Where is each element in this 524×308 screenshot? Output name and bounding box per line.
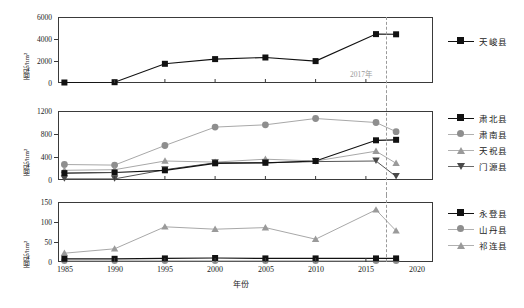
x-axis-title: 年份 — [233, 278, 249, 289]
legend-item-menyuan[interactable]: 门源县 — [448, 158, 508, 174]
annotation-dashed-line-panel2 — [386, 98, 387, 195]
legend-label-menyuan: 门源县 — [479, 160, 508, 172]
legend-item-yongdeng[interactable]: 永登县 — [448, 205, 508, 221]
legend-swatch-triangle-icon — [448, 240, 474, 250]
x-tick-1995: 1995 — [148, 265, 182, 274]
legend-label-sunan: 肃南县 — [479, 128, 508, 140]
x-tick-1990: 1990 — [98, 265, 132, 274]
x-tick-2000: 2000 — [198, 265, 232, 274]
x-tickmarks-panel2 — [115, 176, 366, 180]
legend-item-qilian[interactable]: 祁连县 — [448, 237, 508, 253]
legend-item-subei[interactable]: 肃北县 — [448, 110, 508, 126]
x-tick-2010: 2010 — [299, 265, 333, 274]
legend-item-shandan[interactable]: 山丹县 — [448, 221, 508, 237]
legend-item-tianzhu[interactable]: 天祝县 — [448, 142, 508, 158]
legend-swatch-circle-icon — [448, 224, 474, 234]
x-tickmarks-panel1 — [115, 79, 366, 83]
legend-swatch-square-icon — [448, 36, 474, 46]
x-tick-2020: 2020 — [400, 265, 434, 274]
plot-svg-panel1 — [0, 0, 524, 98]
panel-tianjun: 面积/hm² 6000 4000 2000 0 — [0, 0, 524, 98]
legend-swatch-triangle-down-icon — [448, 161, 474, 171]
chart-figure: 面积/hm² 6000 4000 2000 0 — [0, 0, 524, 308]
series-line-tianjun — [64, 34, 396, 82]
legend-swatch-circle-icon — [448, 129, 474, 139]
legend-item-sunan[interactable]: 肃南县 — [448, 126, 508, 142]
panel-other-counties: 面积/hm² 150 100 50 0 — [0, 195, 524, 308]
legend-panel3: 永登县 山丹县 祁连县 — [448, 205, 508, 253]
annotation-dashed-line-panel1 — [386, 17, 387, 98]
legend-item-tianjun[interactable]: 天峻县 — [448, 33, 508, 49]
series-tianjun — [61, 31, 399, 85]
series-markers-qilian — [61, 206, 400, 256]
legend-label-subei: 肃北县 — [479, 112, 508, 124]
plot-svg-panel3 — [0, 195, 524, 308]
legend-swatch-triangle-icon — [448, 145, 474, 155]
series-markers-sunan — [61, 115, 400, 168]
panel-hexi-counties: 面积/hm² 1200 800 400 0 — [0, 98, 524, 195]
legend-label-tianjun: 天峻县 — [479, 35, 508, 47]
x-tick-1985: 1985 — [48, 265, 82, 274]
legend-label-qilian: 祁连县 — [479, 239, 508, 251]
x-tick-2005: 2005 — [249, 265, 283, 274]
legend-swatch-square-icon — [448, 208, 474, 218]
annotation-dashed-line-panel3 — [386, 195, 387, 262]
legend-panel2: 肃北县 肃南县 天祝县 门源县 — [448, 110, 508, 174]
legend-panel1: 天峻县 — [448, 33, 508, 49]
legend-label-tianzhu: 天祝县 — [479, 144, 508, 156]
plot-svg-panel2 — [0, 98, 524, 195]
legend-swatch-square-icon — [448, 113, 474, 123]
legend-label-shandan: 山丹县 — [479, 223, 508, 235]
series-markers-subei — [61, 137, 399, 176]
series-markers-tianzhu — [61, 148, 400, 174]
x-tick-2015: 2015 — [349, 265, 383, 274]
series-line-sunan — [64, 119, 396, 166]
annotation-label-2017: 2017年 — [350, 68, 372, 79]
legend-label-yongdeng: 永登县 — [479, 207, 508, 219]
